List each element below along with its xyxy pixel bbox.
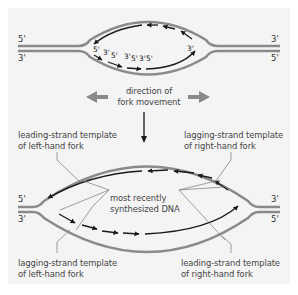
fork-direction-line2: fork movement xyxy=(104,97,194,108)
okazaki-end-label: 5' xyxy=(131,55,138,63)
okazaki-end-label: 5' xyxy=(146,55,153,63)
top-right-lower-end: 5' xyxy=(271,54,279,63)
okazaki-end-label: 3' xyxy=(124,53,131,61)
leading-strand-template-left-fork-label: leading-strand template of left-hand for… xyxy=(18,130,117,151)
leading-end-label: 3' xyxy=(187,45,194,53)
bottom-left-lower-end: 3' xyxy=(18,215,26,224)
label-line: leading-strand template xyxy=(181,258,280,269)
label-line: of left-hand fork xyxy=(18,269,117,280)
most-recently-synthesized-dna-label: most recently synthesized DNA xyxy=(110,193,180,214)
top-replication-bubble xyxy=(18,22,280,75)
bottom-right-upper-end: 3' xyxy=(271,195,279,204)
okazaki-end-label: 5' xyxy=(111,52,118,60)
label-line: leading-strand template xyxy=(18,130,117,141)
bottom-left-upper-end: 5' xyxy=(18,195,26,204)
label-line: lagging-strand template xyxy=(184,130,283,141)
bottom-right-lower-end: 5' xyxy=(271,215,279,224)
top-left-lower-end: 3' xyxy=(18,54,26,63)
label-line: lagging-strand template xyxy=(18,258,117,269)
okazaki-end-label: 3' xyxy=(103,49,110,57)
label-line: most recently xyxy=(110,193,180,204)
label-line: of right-hand fork xyxy=(184,141,283,152)
label-line: of left-hand fork xyxy=(18,141,117,152)
okazaki-end-label: 3' xyxy=(139,55,146,63)
top-template-strands xyxy=(18,22,280,75)
lagging-strand-template-left-fork-label: lagging-strand template of left-hand for… xyxy=(18,258,117,279)
lagging-strand-template-right-fork-label: lagging-strand template of right-hand fo… xyxy=(184,130,283,151)
down-arrow-icon xyxy=(141,112,147,143)
top-left-upper-end: 5' xyxy=(18,35,26,44)
label-line: synthesized DNA xyxy=(110,204,180,215)
leading-strand-template-right-fork-label: leading-strand template of right-hand fo… xyxy=(181,258,280,279)
okazaki-end-label: 5' xyxy=(93,46,100,54)
fork-direction-label: direction of fork movement xyxy=(104,86,194,107)
label-line: of right-hand fork xyxy=(181,269,280,280)
top-right-upper-end: 3' xyxy=(271,35,279,44)
fork-direction-line1: direction of xyxy=(104,86,194,97)
